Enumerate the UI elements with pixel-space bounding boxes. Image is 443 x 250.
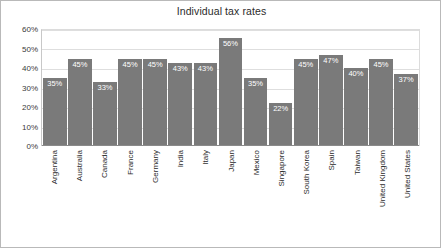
x-label-slot: United Kingdom (370, 148, 394, 238)
x-tick-label: Germany (150, 150, 159, 183)
x-tick-label: United Kingdom (377, 150, 386, 207)
y-tick-label: 0% (2, 142, 38, 151)
bar[interactable]: 43% (194, 63, 218, 145)
bar[interactable]: 40% (344, 68, 368, 145)
bar-value-label: 45% (68, 60, 92, 69)
bar-value-label: 56% (219, 39, 243, 48)
bar-slot: 47% (319, 30, 343, 145)
y-tick-label: 10% (2, 122, 38, 131)
x-tick-label: Japan (226, 150, 235, 172)
x-tick-label: Singapore (276, 150, 285, 186)
y-tick-label: 20% (2, 103, 38, 112)
x-tick-label: France (125, 150, 134, 175)
bar-slot: 22% (269, 30, 293, 145)
bar-value-label: 33% (93, 83, 117, 92)
bar[interactable]: 45% (369, 59, 393, 145)
x-tick-label: Mexico (251, 150, 260, 175)
bar-value-label: 43% (168, 64, 192, 73)
y-tick-label: 30% (2, 83, 38, 92)
bar[interactable]: 47% (319, 55, 343, 145)
x-tick-label: India (176, 150, 185, 167)
x-label-slot: Mexico (244, 148, 268, 238)
bar-value-label: 37% (394, 75, 418, 84)
chart-frame: Individual tax rates 60%50%40%30%20%10%0… (0, 0, 441, 248)
bar-value-label: 22% (269, 104, 293, 113)
x-label-slot: United States (395, 148, 419, 238)
bar[interactable]: 45% (118, 59, 142, 145)
bar-value-label: 35% (43, 79, 67, 88)
x-label-slot: Spain (320, 148, 344, 238)
bar-value-label: 35% (244, 79, 268, 88)
bar-slot: 33% (93, 30, 117, 145)
bar-value-label: 43% (194, 64, 218, 73)
x-label-slot: Argentina (42, 148, 66, 238)
x-label-slot: Singapore (269, 148, 293, 238)
bar-slot: 35% (244, 30, 268, 145)
bar-slot: 56% (219, 30, 243, 145)
bar[interactable]: 45% (143, 59, 167, 145)
x-label-slot: France (118, 148, 142, 238)
x-label-slot: Canada (92, 148, 116, 238)
plot-wrapper: 35%45%33%45%45%43%43%56%35%22%45%47%40%4… (41, 29, 420, 146)
bar-slot: 45% (118, 30, 142, 145)
y-axis-tick-labels: 60%50%40%30%20%10%0% (1, 29, 38, 147)
bar-slot: 45% (143, 30, 167, 145)
bar[interactable]: 33% (93, 82, 117, 145)
x-axis-line (42, 145, 419, 146)
x-label-slot: India (168, 148, 192, 238)
x-label-slot: Japan (219, 148, 243, 238)
bar-slot: 40% (344, 30, 368, 145)
bar[interactable]: 35% (43, 78, 67, 145)
y-tick-label: 60% (2, 25, 38, 34)
bar[interactable]: 56% (219, 38, 243, 145)
bar-slot: 45% (68, 30, 92, 145)
x-tick-label: South Korea (302, 150, 311, 194)
x-label-slot: Italy (193, 148, 217, 238)
x-tick-label: Canada (100, 150, 109, 178)
bar[interactable]: 43% (168, 63, 192, 145)
y-tick-label: 50% (2, 44, 38, 53)
bar[interactable]: 45% (68, 59, 92, 145)
bar-value-label: 45% (143, 60, 167, 69)
x-tick-label: United States (403, 150, 412, 198)
bar-slot: 45% (294, 30, 318, 145)
x-label-slot: Taiwan (345, 148, 369, 238)
x-tick-label: Spain (327, 150, 336, 170)
bar-value-label: 45% (118, 60, 142, 69)
bar-value-label: 45% (294, 60, 318, 69)
x-tick-label: Australia (75, 150, 84, 181)
x-axis-category-labels: ArgentinaAustraliaCanadaFranceGermanyInd… (42, 148, 419, 238)
y-tick-label: 40% (2, 64, 38, 73)
x-label-slot: South Korea (294, 148, 318, 238)
chart-title: Individual tax rates (1, 5, 442, 17)
bar-value-label: 40% (344, 69, 368, 78)
bar[interactable]: 45% (294, 59, 318, 145)
x-tick-label: Argentina (49, 150, 58, 184)
bar-slot: 45% (369, 30, 393, 145)
bar-slot: 43% (194, 30, 218, 145)
bar-value-label: 45% (369, 60, 393, 69)
x-tick-label: Taiwan (352, 150, 361, 175)
bar-series: 35%45%33%45%45%43%43%56%35%22%45%47%40%4… (43, 30, 418, 145)
plot-area: 35%45%33%45%45%43%43%56%35%22%45%47%40%4… (41, 29, 420, 146)
bar-slot: 37% (394, 30, 418, 145)
bar-value-label: 47% (319, 56, 343, 65)
x-label-slot: Germany (143, 148, 167, 238)
bar[interactable]: 35% (244, 78, 268, 145)
bar[interactable]: 37% (394, 74, 418, 145)
bar-slot: 35% (43, 30, 67, 145)
x-label-slot: Australia (67, 148, 91, 238)
bar-slot: 43% (168, 30, 192, 145)
bar[interactable]: 22% (269, 103, 293, 145)
x-tick-label: Italy (201, 150, 210, 165)
